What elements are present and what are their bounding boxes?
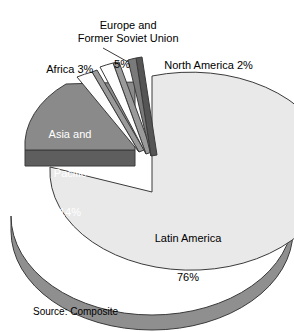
slice-label-latin-america-line1: Latin America xyxy=(128,232,248,245)
pie-chart: Europe and Former Soviet Union 5% Africa… xyxy=(0,0,294,332)
slice-label-latin-america-percent: 76% xyxy=(128,271,248,284)
slice-label-asia-pacific-line2: Pacific xyxy=(24,167,116,180)
slice-label-africa-text: Africa 3% xyxy=(46,63,93,75)
slice-label-europe-fsu-line1: Europe and xyxy=(100,19,157,31)
slice-label-asia-pacific-line1: Asia and xyxy=(24,128,116,141)
slice-label-latin-america: Latin America 76% xyxy=(128,206,248,310)
slice-label-europe-fsu-line2: Former Soviet Union xyxy=(78,32,179,44)
slice-label-north-america: North America 2% xyxy=(152,46,292,85)
source-note: Source: Composite xyxy=(33,306,118,317)
slice-label-africa: Africa 3% xyxy=(18,50,110,89)
slice-label-north-america-text: North America 2% xyxy=(164,59,253,71)
slice-label-asia-pacific: Asia and Pacific 14% xyxy=(24,102,116,245)
slice-label-asia-pacific-percent: 14% xyxy=(24,206,116,219)
